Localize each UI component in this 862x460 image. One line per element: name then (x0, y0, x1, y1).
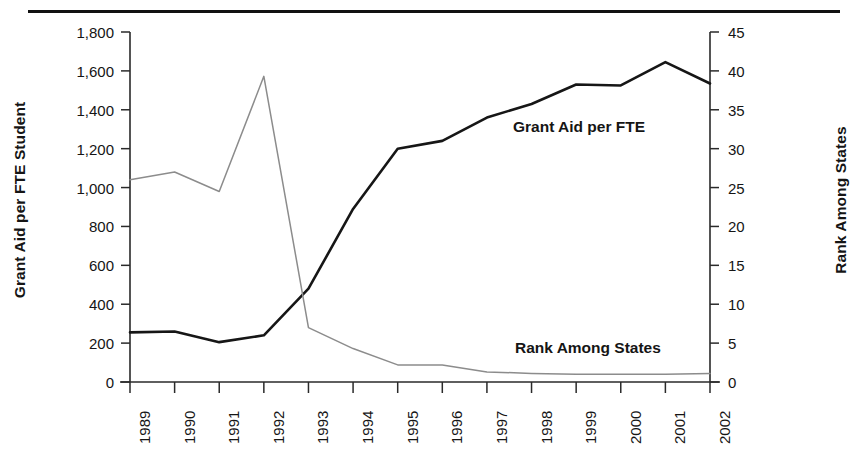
chart-figure: Grant Aid per FTE Student Rank Among Sta… (0, 0, 862, 460)
series-label-rank-among-states: Rank Among States (515, 339, 661, 357)
series-label-grant-aid: Grant Aid per FTE (513, 118, 645, 136)
plot-area (0, 0, 862, 460)
data-line-grant-aid-per-fte (130, 62, 710, 342)
